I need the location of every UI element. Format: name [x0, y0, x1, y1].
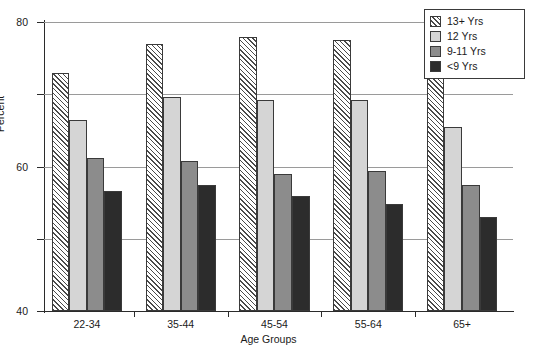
- y-tick-label-80: 80: [16, 16, 28, 28]
- bar-55-64--9-yrs: [386, 204, 404, 311]
- x-tick-3: [415, 311, 416, 317]
- y-axis-title: Percent: [0, 96, 6, 132]
- legend-swatch-icon: [430, 61, 441, 72]
- legend-label: 12 Yrs: [447, 31, 477, 42]
- x-group-label-35-44: 35-44: [167, 318, 194, 330]
- bar-35-44-12-yrs: [163, 97, 181, 311]
- bar-35-44--9-yrs: [198, 185, 216, 311]
- legend-item--9-yrs: <9 Yrs: [430, 59, 519, 73]
- legend-item-13-yrs: 13+ Yrs: [430, 14, 519, 28]
- legend-item-12-yrs: 12 Yrs: [430, 29, 519, 43]
- bar-35-44-9-11-yrs: [181, 161, 199, 311]
- x-tick-0: [134, 311, 135, 317]
- y-tick-80: 80: [37, 22, 44, 23]
- bar-65+-13-yrs: [427, 64, 445, 311]
- x-group-label-45-54: 45-54: [261, 318, 288, 330]
- bar-group-35-44: [146, 22, 216, 311]
- legend-item-9-11-yrs: 9-11 Yrs: [430, 44, 519, 58]
- bar-chart: Percent 020406080 Age Groups 13+ Yrs12 Y…: [0, 0, 537, 351]
- bar-55-64-12-yrs: [351, 100, 369, 311]
- legend-swatch-icon: [430, 46, 441, 57]
- bar-55-64-13-yrs: [333, 40, 351, 311]
- y-tick-label-60: 60: [16, 161, 28, 173]
- bar-22-34-9-11-yrs: [87, 158, 105, 311]
- x-axis-line: [42, 311, 514, 312]
- bar-22-34-12-yrs: [69, 120, 87, 311]
- legend: 13+ Yrs12 Yrs9-11 Yrs<9 Yrs: [424, 9, 525, 79]
- x-group-label-65+: 65+: [453, 318, 471, 330]
- bar-22-34--9-yrs: [104, 191, 122, 311]
- x-group-label-55-64: 55-64: [355, 318, 382, 330]
- bar-group-55-64: [333, 22, 403, 311]
- bar-group-45-54: [239, 22, 309, 311]
- legend-label: 13+ Yrs: [447, 16, 483, 27]
- y-tick-label-40: 40: [16, 305, 28, 317]
- bar-45-54-13-yrs: [239, 37, 257, 311]
- x-tick-2: [321, 311, 322, 317]
- legend-swatch-icon: [430, 31, 441, 42]
- bar-65+--9-yrs: [480, 217, 498, 311]
- x-tick-1: [228, 311, 229, 317]
- bar-45-54-12-yrs: [257, 100, 275, 311]
- y-tick-40: 40: [37, 167, 44, 168]
- bar-55-64-9-11-yrs: [368, 171, 386, 311]
- y-tick-60: 60: [37, 94, 44, 95]
- x-axis-title: Age Groups: [0, 333, 537, 345]
- bar-45-54-9-11-yrs: [274, 174, 292, 311]
- bar-22-34-13-yrs: [52, 73, 70, 311]
- bar-35-44-13-yrs: [146, 44, 164, 311]
- legend-label: 9-11 Yrs: [447, 46, 486, 57]
- legend-label: <9 Yrs: [447, 61, 477, 72]
- x-group-label-22-34: 22-34: [73, 318, 100, 330]
- y-tick-0: 0: [37, 311, 44, 312]
- bar-65+-12-yrs: [444, 127, 462, 311]
- bar-45-54--9-yrs: [292, 196, 310, 311]
- legend-swatch-icon: [430, 16, 441, 27]
- y-tick-20: 20: [37, 239, 44, 240]
- bar-group-22-34: [52, 22, 122, 311]
- bar-65+-9-11-yrs: [462, 185, 480, 311]
